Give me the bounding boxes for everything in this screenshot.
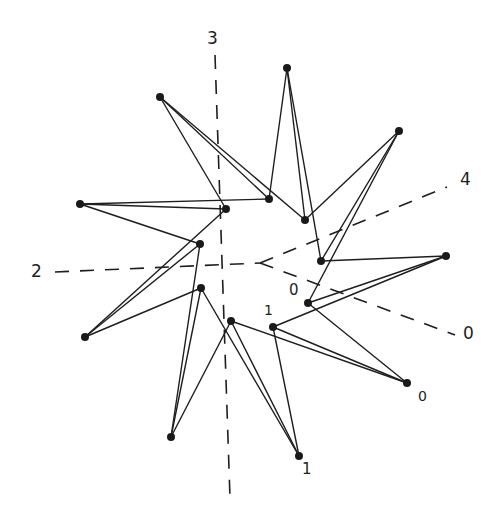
axis-line-3 <box>215 55 230 498</box>
edge-P5-I5 <box>273 327 299 456</box>
axis-line-0 <box>260 263 455 335</box>
node-P7 <box>81 333 89 341</box>
edge-P6-I7 <box>171 288 201 437</box>
edge-P2-I3 <box>321 131 399 261</box>
axis-label-4: 4 <box>460 171 471 188</box>
node-P4 <box>403 379 411 387</box>
axis-label-2: 2 <box>31 263 42 280</box>
axis-label-0: 0 <box>463 325 474 342</box>
edge-P7-I7 <box>85 288 201 337</box>
node-label-0-outer: 0 <box>418 389 427 403</box>
edge-P4-I5 <box>273 327 407 383</box>
edge-P3-I5 <box>273 256 446 327</box>
axis-line-4 <box>260 187 447 263</box>
edge-P8-I9 <box>80 204 226 209</box>
node-I5 <box>269 323 277 331</box>
edge-P9-I1 <box>160 97 269 199</box>
node-P1 <box>283 64 291 72</box>
edge-P9-I9 <box>160 97 226 209</box>
edge-P1-I3 <box>287 68 321 261</box>
node-P9 <box>156 93 164 101</box>
node-I2 <box>301 216 309 224</box>
axis-label-3: 3 <box>207 30 218 47</box>
edge-P1-I2 <box>287 68 305 220</box>
node-P2 <box>395 127 403 135</box>
node-P8 <box>76 200 84 208</box>
node-label-0-inner: 0 <box>289 283 299 298</box>
edge-P8-I8 <box>80 204 200 244</box>
edge-P8-I1 <box>80 199 269 204</box>
node-P3 <box>442 252 450 260</box>
node-label-1-outer: 1 <box>302 462 312 477</box>
node-label-1-inner: 1 <box>264 303 273 317</box>
node-I1 <box>265 195 273 203</box>
edge-P4-I4 <box>308 303 407 383</box>
edge-P3-I3 <box>321 256 446 261</box>
node-I6 <box>227 317 235 325</box>
node-I3 <box>317 257 325 265</box>
node-P6 <box>167 433 175 441</box>
node-I7 <box>197 284 205 292</box>
edge-P7-I9 <box>85 209 226 337</box>
edge-P1-I1 <box>269 68 287 199</box>
node-I8 <box>196 240 204 248</box>
edge-P2-I2 <box>305 131 399 220</box>
node-I9 <box>222 205 230 213</box>
node-P5 <box>295 452 303 460</box>
edge-P5-I7 <box>201 288 299 456</box>
star-diagram <box>0 0 501 531</box>
edge-P7-I8 <box>85 244 200 337</box>
node-I4 <box>304 299 312 307</box>
